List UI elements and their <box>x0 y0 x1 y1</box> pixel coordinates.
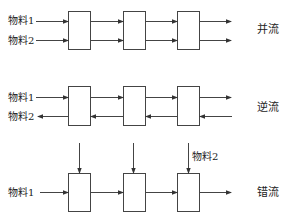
row2-stage-2 <box>124 87 146 126</box>
row-cross: 物料1 物料2 错流 <box>8 143 279 212</box>
row2-title: 逆流 <box>257 100 279 114</box>
row1-input1-label: 物料1 <box>8 14 34 26</box>
row1-stage-2 <box>124 12 146 50</box>
row3-input2-label: 物料2 <box>192 150 218 162</box>
row1-stage-3 <box>178 12 200 50</box>
row2-input2-label: 物料2 <box>8 110 34 122</box>
row3-stage-3 <box>178 174 200 212</box>
row3-stage-2 <box>124 174 146 212</box>
row3-input1-label: 物料1 <box>8 186 34 198</box>
row1-stage-1 <box>69 12 91 50</box>
row1-input2-label: 物料2 <box>8 34 34 46</box>
row-parallel: 物料1 物料2 并流 <box>8 12 279 50</box>
row3-stage-1 <box>69 174 91 212</box>
row2-stage-3 <box>178 87 200 126</box>
row3-title: 错流 <box>257 185 279 199</box>
row2-stage-1 <box>69 87 91 126</box>
row-counter: 物料1 物料2 逆流 <box>8 87 279 126</box>
row2-input1-label: 物料1 <box>8 91 34 103</box>
flow-diagram: 物料1 物料2 并流 物料1 物料2 逆流 物料1 物料2 <box>0 0 285 220</box>
row1-title: 并流 <box>257 22 279 36</box>
